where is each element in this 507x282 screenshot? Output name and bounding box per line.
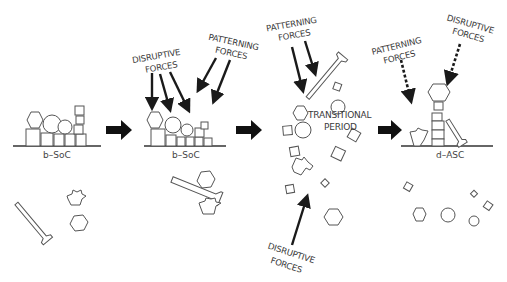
hexagon-shape [147,112,163,128]
stage-2-stack [144,112,226,146]
hexagon-shape [428,84,450,101]
hexagon-shape [324,209,343,225]
square-shape [41,133,53,146]
diamond-shape [403,182,413,192]
square-shape [65,134,75,146]
stage-3-transitional-label-line1: TRANSITIONAL [308,111,371,120]
big-arrow-right-icon [106,120,132,140]
patterning-force-arrow-icon [215,60,230,98]
circle-shape [58,120,72,134]
circle-shape [181,124,193,136]
big-arrow-right-icon [236,120,262,140]
stage-3-forces [292,41,314,245]
square-shape [285,184,294,193]
square-shape [289,146,299,156]
square-shape [26,129,40,146]
circle-shape [295,122,311,138]
disruptive-force-arrow-icon [160,74,169,106]
state-transition-diagram: b–SoC b–SoC d–ASC DISRUPTIVE FORCES PATT… [0,0,507,282]
stage-4-caption: d–ASC [436,150,464,160]
big-arrow-right-icon [378,120,402,140]
patterning-force-arrow-icon [305,41,314,70]
disruptive-force-arrow-icon [292,200,306,245]
hexagon-shape [413,208,426,221]
patterning-force-arrow-icon [200,58,216,87]
square-shape [74,125,83,134]
flower-pot-shape [410,128,428,146]
diamond-shape [321,179,329,187]
square-shape [283,126,293,136]
square-shape [331,146,346,161]
bone-tool-shape [12,200,53,245]
hexagon-shape [27,112,43,128]
stage-3-transitional-label-line2: PERIOD [324,123,357,132]
stage-1-scattered [12,190,88,245]
patterning-force-arrow-icon [292,47,302,87]
stage-1-stack [13,106,101,146]
hexagon-shape [293,106,308,120]
flower-pot-shape [292,157,313,175]
square-shape [76,134,86,146]
stage-1-caption: b–SoC [43,150,71,160]
stage-3-scattered [283,52,361,225]
square-shape [333,82,342,91]
stage-2-scattered [169,171,222,214]
circle-shape [469,216,479,226]
circle-shape [165,117,181,133]
stage-4-scattered [403,182,493,226]
stage-2-caption: b–SoC [172,150,200,160]
patterning-force-dashed-arrow-icon [401,60,410,97]
flower-pot-shape [67,190,86,205]
diamond-shape [470,190,477,197]
diamond-shape [483,201,493,211]
stage-4-stack [401,84,493,147]
hexagon-shape [197,171,215,188]
circle-shape [441,208,455,222]
square-shape [54,134,64,146]
square-shape [434,102,443,110]
disruptive-force-arrow-icon [170,72,187,107]
bone-tool-shape [443,117,467,147]
square-shape [75,106,84,115]
square-shape [76,116,84,124]
disruptive-force-dashed-arrow-icon [449,44,460,79]
hexagon-shape [70,215,88,231]
